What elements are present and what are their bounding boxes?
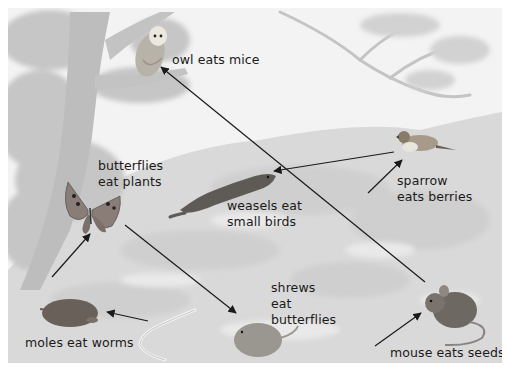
label-butterfly-line1: butterflies [98, 158, 163, 174]
label-mouse: mouse eats seeds [390, 345, 502, 361]
label-weasel-line2: small birds [227, 214, 296, 230]
label-butterfly-line2: eat plants [98, 174, 162, 190]
label-shrew-line2: eat [271, 296, 292, 312]
label-owl: owl eats mice [172, 52, 260, 68]
label-shrew-line3: butterflies [271, 312, 336, 328]
label-sparrow-line1: sparrow [397, 173, 447, 189]
food-web-diagram: owl eats mice butterflies eat plants wea… [8, 8, 502, 363]
label-shrew-line1: shrews [271, 280, 315, 296]
label-sparrow-line2: eats berries [397, 189, 472, 205]
label-weasel-line1: weasels eat [227, 198, 302, 214]
label-mole: moles eat worms [25, 335, 134, 351]
